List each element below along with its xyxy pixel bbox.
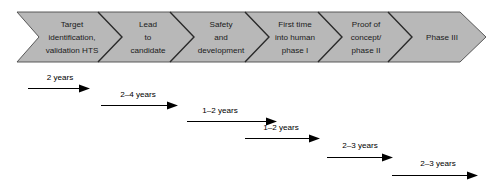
stage-label-line: concept/ (351, 33, 382, 42)
duration-label: 1–2 years (263, 123, 299, 132)
stage-label-line: Proof of (352, 20, 381, 29)
stage-proof-of-concept[interactable]: Proof of concept/ phase II (351, 20, 382, 55)
stage-label-line: Target (61, 20, 84, 29)
stage-label-line: and (214, 33, 228, 42)
duration-arrow-4: 1–2 years (245, 123, 320, 143)
duration-label: 2–3 years (420, 159, 456, 168)
pipeline-figure: Target identification, validation HTS Le… (0, 0, 494, 186)
stage-label-line: First time (278, 20, 312, 29)
stage-label-line: Safety (210, 20, 234, 29)
stage-label-line: validation HTS (46, 46, 99, 55)
arrow-head-icon (79, 85, 90, 93)
duration-arrow-6: 2–3 years (392, 159, 478, 180)
pipeline-svg: Target identification, validation HTS Le… (0, 0, 494, 186)
arrow-head-icon (309, 135, 320, 143)
arrow-head-icon (467, 172, 478, 180)
duration-label: 2–3 years (342, 141, 378, 150)
duration-label: 2–4 years (120, 90, 156, 99)
stage-label-line: phase I (282, 46, 309, 55)
stage-label-line: into human (275, 33, 315, 42)
stage-label-line: development (198, 46, 245, 55)
stage-label-line: identification, (48, 33, 95, 42)
arrow-head-icon (167, 102, 178, 110)
stage-label-line: candidate (130, 46, 166, 55)
stage-label-line: Phase III (426, 33, 458, 42)
duration-arrow-2: 2–4 years (101, 90, 178, 110)
stage-label-line: to (145, 33, 152, 42)
duration-label: 1–2 years (202, 106, 238, 115)
duration-arrow-1: 2 years (28, 73, 90, 93)
arrow-head-icon (382, 154, 393, 162)
stage-phase-iii[interactable]: Phase III (426, 33, 458, 42)
stage-label-line: Lead (139, 20, 157, 29)
duration-arrow-5: 2–3 years (327, 141, 393, 162)
stage-label-line: phase II (352, 46, 381, 55)
duration-label: 2 years (47, 73, 74, 82)
